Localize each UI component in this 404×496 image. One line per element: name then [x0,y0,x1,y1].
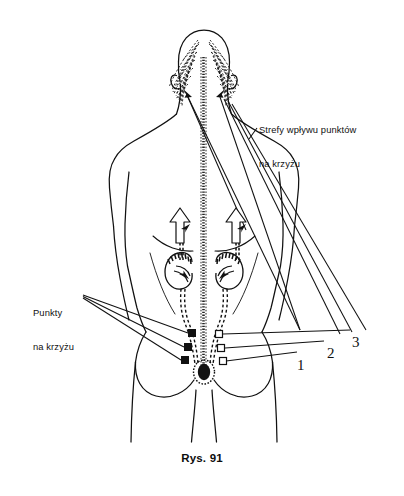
label-sacral-points-line1: Punkty [33,307,74,318]
lumbar-zone-left [165,252,192,289]
label-sacral-points-line2: na krzyżu [33,341,74,352]
right-sacral-point-markers [216,331,227,365]
label-sacral-points: Punkty na krzyżu [33,284,74,376]
sacral-node [194,360,215,384]
anatomical-diagram-illustration [0,0,404,496]
spine-column [201,57,206,378]
label-influence-zones-line2: na krzyżu [259,158,356,169]
figure-container: Strefy wpływu punktów na krzyżu Punkty n… [0,0,404,496]
points-leader-lines [83,295,188,360]
label-number-2: 2 [327,344,335,362]
figure-caption: Rys. 91 [0,452,404,464]
label-influence-zones: Strefy wpływu punktów na krzyżu [259,101,356,193]
label-number-3: 3 [352,333,360,351]
zones-label-leader [249,128,257,139]
label-influence-zones-line1: Strefy wpływu punktów [259,124,356,135]
label-number-1: 1 [297,356,305,374]
